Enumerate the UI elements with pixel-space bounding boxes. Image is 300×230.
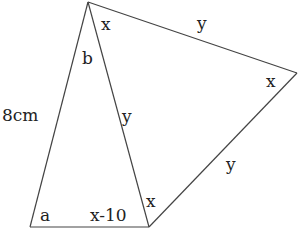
top-right-side-edge <box>88 2 297 73</box>
geometry-diagram: x b y x 8cm y y a x-10 x <box>0 0 300 230</box>
angle-top-right-label: x <box>101 14 111 34</box>
lower-right-side-edge <box>149 73 297 227</box>
angle-bottom-left-label: a <box>40 205 50 225</box>
side-top-right-label: y <box>196 13 207 33</box>
shared-side-edge <box>88 2 149 227</box>
side-left-label: 8cm <box>2 105 38 125</box>
angle-bottom-right-outer-label: x <box>146 191 156 211</box>
angle-bottom-right-inner-label: x-10 <box>90 205 127 225</box>
side-shared-label: y <box>121 106 132 126</box>
angle-top-left-label: b <box>82 48 93 68</box>
left-side-edge <box>30 2 88 227</box>
side-lower-right-label: y <box>225 154 236 174</box>
angle-right-label: x <box>266 71 276 91</box>
